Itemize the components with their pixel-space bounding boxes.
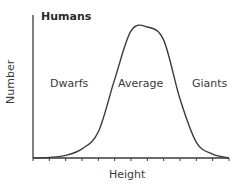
annotation-dwarfs: Dwarfs [50,77,88,90]
chart: Humans Dwarfs Average Giants Number Heig… [0,0,243,190]
y-axis-label: Number [4,60,17,104]
annotation-giants: Giants [192,77,227,90]
annotation-average: Average [118,77,163,90]
x-axis-label: Height [109,168,145,181]
chart-title: Humans [41,10,91,23]
distribution-curve [33,25,229,158]
chart-plot [0,0,243,190]
